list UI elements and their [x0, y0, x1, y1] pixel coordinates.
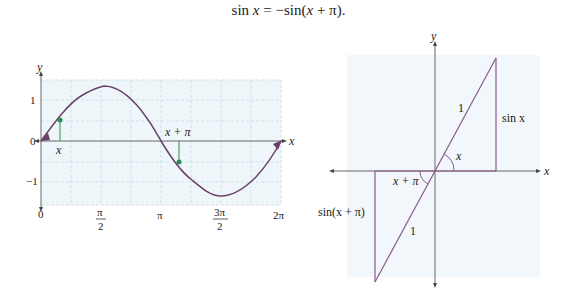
point-x: [58, 118, 63, 123]
x-tick-pi: π: [157, 209, 163, 221]
diagram-background: [347, 55, 540, 277]
diagram-y-down-arrow-icon: [433, 283, 437, 288]
diagram-y-axis-label: y: [430, 29, 437, 43]
angle-x-label: x: [455, 149, 462, 163]
point-xpi: [177, 160, 182, 165]
sin-x-label: sin x: [502, 111, 525, 125]
x-tick-2pi: 2π: [273, 209, 285, 221]
upper-hyp-label: 1: [458, 101, 464, 115]
x-tick-0: 0: [38, 208, 44, 220]
angle-xpi-label: x + π: [392, 174, 419, 188]
x-tick-pi2-num: π: [97, 206, 103, 218]
x-axis-arrow-icon: [282, 139, 287, 143]
y-tick-0: 0: [30, 135, 36, 147]
y-tick-neg1: −1: [26, 175, 38, 187]
x-tick-3pi2-den: 2: [217, 220, 223, 232]
x-tick-3pi2-num: 3π: [214, 206, 226, 218]
figure: x x + π y x 1 0 −1 0 π 2 π 3π 2 2π x y: [0, 0, 577, 295]
unit-circle-diagram: x y x 1 sin x x + π 1 sin(x + π): [318, 29, 550, 288]
lower-hyp-label: 1: [410, 224, 416, 238]
diagram-x-left-arrow-icon: [329, 169, 334, 173]
x-tick-pi2-den: 2: [98, 220, 104, 232]
point-xpi-label: x + π: [164, 125, 191, 139]
y-tick-1: 1: [30, 94, 36, 106]
diagram-x-axis-label: x: [543, 164, 550, 178]
sin-x-plus-pi-label: sin(x + π): [318, 205, 365, 219]
x-axis-label: x: [288, 134, 295, 148]
point-x-label: x: [55, 143, 62, 157]
y-axis-label: y: [36, 60, 43, 74]
sine-graph: x x + π y x 1 0 −1 0 π 2 π 3π 2 2π: [26, 60, 295, 232]
